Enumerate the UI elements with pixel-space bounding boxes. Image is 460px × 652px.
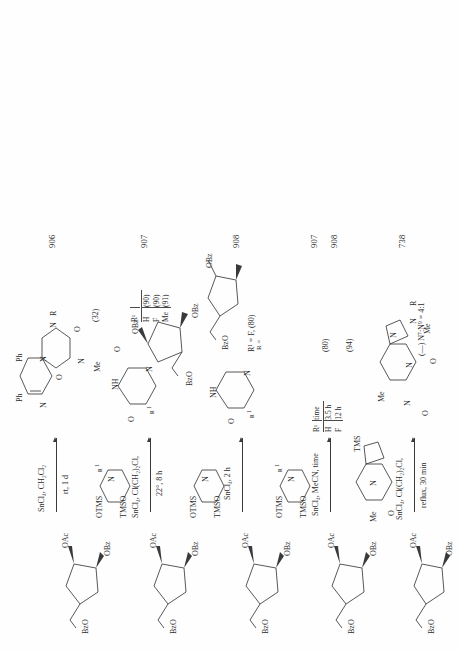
table-cell-time: 12 h	[334, 401, 343, 421]
svg-text:1: 1	[146, 406, 152, 409]
svg-text:O: O	[113, 346, 122, 352]
yield-row1: (32)	[92, 309, 100, 322]
product-number-row5: 738	[398, 235, 407, 248]
svg-text:Me: Me	[369, 511, 378, 522]
svg-text:1: 1	[274, 464, 280, 467]
product-number-row3: 908	[232, 235, 241, 248]
substrate-sugar-row3: BzO OAc OBz	[220, 524, 292, 634]
svg-text:OTMS: OTMS	[189, 496, 198, 518]
table-cell-yield: (90)	[152, 291, 161, 308]
substrate-sugar-row5: BzO OAc OBz	[392, 524, 454, 634]
table-cell-r1: Me	[161, 308, 170, 323]
svg-text:1: 1	[246, 410, 252, 413]
product-number-row2: 907	[140, 235, 149, 248]
svg-text:N: N	[369, 480, 378, 486]
table-cell-r1: F	[334, 420, 343, 432]
r-definition-sugar-row3: BzO OBz	[186, 232, 248, 352]
svg-text:N: N	[287, 476, 296, 482]
table-row4: R¹ time H 3.5 h F 12 h	[312, 401, 343, 432]
product-number-row4-b: 908	[330, 235, 339, 248]
atom-o-1: O	[55, 374, 64, 380]
svg-text:R: R	[277, 468, 283, 472]
svg-text:OBz: OBz	[445, 541, 454, 556]
reaction-arrow-row4	[330, 438, 331, 512]
table-row4-header-r1: R¹	[312, 420, 322, 432]
svg-text:N: N	[389, 332, 398, 338]
svg-text:OBz: OBz	[283, 541, 292, 556]
table-cell-yield: (90)	[142, 291, 152, 308]
svg-text:BzO: BzO	[169, 619, 178, 634]
conditions-row5-line2: reflux, 30 min	[420, 462, 428, 508]
atom-ph-a: Ph	[15, 394, 24, 402]
reagent-row4: OTMS R1 TMSO N	[272, 416, 314, 526]
svg-text:BzO: BzO	[185, 371, 194, 386]
scheme-page: BzO OAc OBz SnCl₄, CH₂Cl₂ rt, 1 d Ph Ph …	[0, 0, 460, 652]
svg-text:R: R	[149, 410, 155, 414]
yield-row4-a: (80)	[322, 339, 330, 352]
reaction-arrow-row2	[150, 438, 151, 512]
atom-o-2: O	[73, 326, 82, 332]
svg-text:R: R	[249, 414, 255, 418]
svg-text:TMS: TMS	[353, 436, 362, 452]
substrate-sugar-row2: BzO OAc OBz	[128, 524, 200, 634]
svg-text:OAc: OAc	[409, 532, 418, 548]
svg-text:BzO: BzO	[427, 619, 436, 634]
label-bzo: BzO	[81, 619, 90, 634]
svg-text:BzO: BzO	[221, 335, 230, 350]
reagent-row3: OTMS TMSO N	[186, 416, 228, 526]
svg-text:Me: Me	[377, 391, 386, 402]
conditions-row1-line1: SnCl₄, CH₂Cl₂	[38, 465, 46, 512]
table-cell-yield: (91)	[161, 291, 170, 308]
svg-text:O: O	[227, 418, 236, 424]
product-number-row1: 906	[48, 235, 57, 248]
table-row2-header-blank	[130, 291, 140, 308]
reagent-row5: TMS Me N O	[350, 410, 400, 530]
table-cell-r1: F	[152, 308, 161, 323]
svg-text:BzO: BzO	[347, 619, 356, 634]
svg-text:OBz: OBz	[191, 541, 200, 556]
atom-ph-b: Ph	[15, 354, 24, 362]
atom-n-4: N	[49, 322, 58, 328]
svg-text:TMSO: TMSO	[299, 496, 308, 518]
product-number-row4-a: 907	[310, 235, 319, 248]
table-row2-header-r1: R¹	[130, 308, 140, 323]
table-row: F 12 h	[334, 401, 343, 432]
reaction-scheme: BzO OAc OBz SnCl₄, CH₂Cl₂ rt, 1 d Ph Ph …	[0, 0, 460, 652]
reagent-row1	[0, 412, 38, 532]
reaction-arrow-row1	[56, 438, 57, 512]
substrate-sugar-row4: BzO OAc OBz	[306, 524, 378, 634]
atom-n-2: N	[39, 356, 48, 362]
svg-text:TMSO: TMSO	[213, 496, 222, 518]
conditions-row1-line2: rt, 1 d	[62, 475, 70, 494]
svg-text:N: N	[403, 400, 412, 406]
substrate-sugar-row1: BzO OAc OBz	[40, 524, 112, 634]
table-row: H (90)	[142, 291, 152, 323]
product-row5: Me N O N O N N Me R	[372, 274, 460, 424]
svg-text:O: O	[429, 358, 438, 364]
svg-text:N: N	[201, 476, 210, 482]
table-cell-r1: H	[142, 308, 152, 323]
label-obz: OBz	[103, 541, 112, 556]
svg-text:TMSO: TMSO	[119, 496, 128, 518]
svg-text:OAc: OAc	[241, 532, 250, 548]
svg-text:R: R	[97, 468, 103, 472]
r-definition-label-row3: R =	[256, 340, 263, 350]
table-cell-r1: H	[324, 420, 334, 432]
atom-r-1: R	[49, 310, 58, 316]
reaction-arrow-row5	[414, 438, 415, 512]
svg-text:OAc: OAc	[149, 532, 158, 548]
atom-n-3: N	[77, 358, 86, 364]
svg-text:OBz: OBz	[369, 541, 378, 556]
svg-text:O: O	[387, 510, 396, 516]
svg-text:BzO: BzO	[261, 619, 270, 634]
table-row: Me (91)	[161, 291, 170, 323]
svg-text:O: O	[421, 410, 430, 416]
reaction-arrow-row3	[242, 438, 243, 512]
svg-text:OTMS: OTMS	[275, 496, 284, 518]
svg-text:N: N	[243, 370, 252, 376]
atom-n-1: N	[39, 402, 48, 408]
table-row4-header-time: time	[312, 401, 322, 421]
table-cell-time: 3.5 h	[324, 401, 334, 421]
svg-text:OAc: OAc	[327, 532, 336, 548]
svg-text:O: O	[127, 416, 136, 422]
